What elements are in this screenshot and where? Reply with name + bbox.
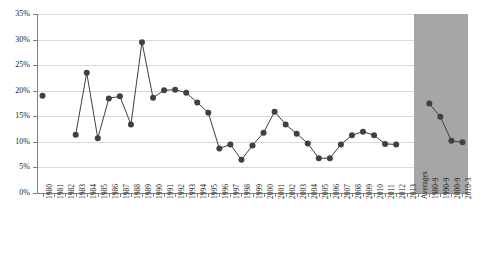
annual-point [106, 95, 112, 101]
y-axis-label: 15% [15, 112, 30, 120]
x-axis-label: 1980-9 [432, 178, 440, 199]
annual-point [150, 95, 156, 101]
x-axis-tick [308, 193, 309, 197]
x-axis-tick [76, 193, 77, 197]
x-axis-label: 1996 [222, 184, 230, 199]
annual-point [216, 146, 222, 152]
x-axis-label: 1980 [46, 184, 54, 199]
x-axis-tick [385, 193, 386, 197]
annual-point [360, 129, 366, 135]
x-axis-label: 1985 [101, 184, 109, 199]
y-axis-label: 20% [15, 87, 30, 95]
x-axis-label: 2002 [289, 184, 297, 199]
x-axis-label: 1983 [79, 184, 87, 199]
x-axis-label: 2006 [333, 184, 341, 199]
x-axis-label: 2001 [278, 184, 286, 199]
x-axis-tick [286, 193, 287, 197]
annual-point [294, 131, 300, 137]
annual-line [76, 42, 396, 160]
x-axis-tick [131, 193, 132, 197]
annual-point [128, 121, 134, 127]
annual-point [316, 155, 322, 161]
annual-point [371, 132, 377, 138]
averages-point [459, 139, 465, 145]
x-axis-tick [253, 193, 254, 197]
x-axis-tick [275, 193, 276, 197]
annual-point [238, 157, 244, 163]
x-axis-label: 1991 [167, 184, 175, 199]
x-axis-label: 1998 [244, 184, 252, 199]
x-axis-label: 2010 [377, 184, 385, 199]
x-axis-label: 2007 [344, 184, 352, 199]
x-axis-tick [87, 193, 88, 197]
annual-point [327, 155, 333, 161]
annual-point [172, 87, 178, 93]
annual-point [73, 132, 79, 138]
x-axis-label: 2008 [355, 184, 363, 199]
x-axis-tick [363, 193, 364, 197]
x-axis-label: 2005 [322, 184, 330, 199]
x-axis-tick [374, 193, 375, 197]
x-axis-tick [297, 193, 298, 197]
annual-point [261, 130, 267, 136]
x-axis-label: Averages [421, 171, 429, 199]
x-axis-label: 1994 [200, 184, 208, 199]
x-axis-tick [264, 193, 265, 197]
x-axis-tick [396, 193, 397, 197]
averages-line [429, 104, 462, 143]
annual-point [382, 141, 388, 147]
x-axis-tick [330, 193, 331, 197]
x-axis-tick [43, 193, 44, 197]
x-axis-label: 2004 [311, 184, 319, 199]
x-axis-tick [142, 193, 143, 197]
annual-point [95, 135, 101, 141]
x-axis-label: 2000 [267, 184, 275, 199]
x-axis-tick [109, 193, 110, 197]
y-axis-label: 0% [19, 189, 30, 197]
annual-point [161, 87, 167, 93]
x-axis-label: 1986 [112, 184, 120, 199]
annual-point [338, 141, 344, 147]
annual-point [349, 132, 355, 138]
x-axis-tick [153, 193, 154, 197]
annual-point [139, 39, 145, 45]
x-axis-label: 2009 [366, 184, 374, 199]
annual-point [283, 121, 289, 127]
x-axis-tick [54, 193, 55, 197]
annual-point [393, 141, 399, 147]
x-axis-label: 1990 [156, 184, 164, 199]
x-axis-tick [341, 193, 342, 197]
x-axis-label: 2010-3 [465, 178, 473, 199]
annual-point [117, 93, 123, 99]
averages-point [448, 138, 454, 144]
y-axis-label: 25% [15, 61, 30, 69]
y-axis-line [37, 14, 38, 194]
x-axis-label: 2013 [410, 184, 418, 199]
x-axis-label: 1995 [211, 184, 219, 199]
x-axis-label: 1989 [145, 184, 153, 199]
x-axis-label: 1981 [57, 184, 65, 199]
x-axis-tick [175, 193, 176, 197]
x-axis-label: 2000-9 [454, 178, 462, 199]
x-axis-tick [120, 193, 121, 197]
x-axis-label: 1999 [256, 184, 264, 199]
x-axis-label: 1987 [123, 184, 131, 199]
x-axis-tick [164, 193, 165, 197]
y-axis-label: 10% [15, 138, 30, 146]
plot-area [37, 14, 468, 193]
x-axis-tick [98, 193, 99, 197]
x-axis-label: 1988 [134, 184, 142, 199]
annual-point [194, 99, 200, 105]
y-axis-label: 5% [19, 163, 30, 171]
annual-point [305, 140, 311, 146]
x-axis-label: 2003 [300, 184, 308, 199]
x-axis-tick [65, 193, 66, 197]
x-axis-label: 1990-9 [443, 178, 451, 199]
x-axis-label: 2012 [399, 184, 407, 199]
y-axis-label: 35% [15, 10, 30, 18]
annual-point [272, 109, 278, 115]
x-axis-label: 1993 [189, 184, 197, 199]
averages-point [426, 101, 432, 107]
annual-point [84, 70, 90, 76]
x-axis-label: 1984 [90, 184, 98, 199]
